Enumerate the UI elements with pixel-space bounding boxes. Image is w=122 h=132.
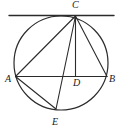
segment-ce	[56, 16, 76, 109]
segment-ae	[16, 77, 57, 110]
segment-cb	[76, 16, 108, 77]
geometry-figure: A B C D E	[0, 0, 122, 132]
point-label-a: A	[5, 74, 11, 84]
point-label-e: E	[52, 117, 58, 127]
segment-ac	[16, 16, 76, 77]
point-label-b: B	[109, 74, 115, 84]
geometry-canvas	[0, 0, 122, 132]
point-label-d: D	[73, 78, 80, 88]
point-label-c: C	[72, 0, 79, 10]
